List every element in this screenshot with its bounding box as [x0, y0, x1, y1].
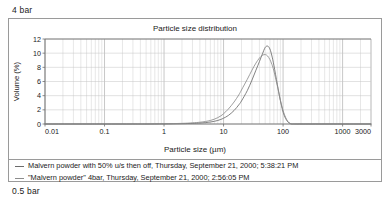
- plot-area: 0246810120.010.111010010003000Volume (%): [9, 19, 383, 145]
- svg-text:4: 4: [37, 91, 41, 100]
- legend-item[interactable]: Malvern powder with 50% u/s then off, Th…: [9, 160, 381, 172]
- svg-text:0: 0: [37, 120, 41, 129]
- svg-text:3000: 3000: [355, 127, 371, 136]
- legend-item[interactable]: "Malvern powder" 4bar, Thursday, Septemb…: [9, 172, 381, 184]
- svg-text:1000: 1000: [335, 127, 351, 136]
- legend-item-label: Malvern powder with 50% u/s then off, Th…: [28, 161, 298, 171]
- svg-text:8: 8: [37, 63, 41, 72]
- svg-text:0.1: 0.1: [100, 127, 110, 136]
- legend: Malvern powder with 50% u/s then off, Th…: [9, 160, 381, 184]
- svg-text:100: 100: [277, 127, 289, 136]
- line-dash-icon: [15, 166, 24, 167]
- legend-item-label: "Malvern powder" 4bar, Thursday, Septemb…: [28, 173, 249, 183]
- chart-panel: Particle size distribution 0246810120.01…: [8, 18, 382, 182]
- svg-text:Volume (%): Volume (%): [12, 61, 21, 101]
- pressure-label-top: 4 bar: [12, 5, 32, 15]
- svg-text:2: 2: [37, 105, 41, 114]
- particle-size-distribution-plot: 0246810120.010.111010010003000Volume (%): [9, 19, 383, 145]
- svg-text:10: 10: [33, 49, 41, 58]
- svg-text:10: 10: [220, 127, 228, 136]
- x-axis-title: Particle size (µm): [9, 145, 381, 154]
- svg-text:0.01: 0.01: [45, 127, 59, 136]
- line-dash-icon: [15, 178, 24, 179]
- svg-text:12: 12: [33, 35, 41, 44]
- screenshot-root: 4 bar Particle size distribution 0246810…: [0, 0, 390, 202]
- pressure-label-bottom: 0.5 bar: [12, 186, 40, 196]
- svg-text:1: 1: [162, 127, 166, 136]
- svg-text:6: 6: [37, 77, 41, 86]
